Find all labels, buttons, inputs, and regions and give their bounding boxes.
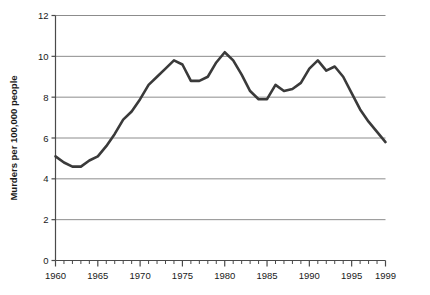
x-axis-tick-label: 1985 [256,270,277,281]
x-axis-tick-label: 1960 [45,270,66,281]
x-axis-tick-label: 1980 [214,270,235,281]
x-axis-tick-label: 1970 [130,270,151,281]
x-axis-tick-label: 1990 [299,270,320,281]
y-axis-tick-label: 10 [38,51,49,62]
y-axis-tick-label: 2 [43,214,48,225]
x-axis-tick-label: 1999 [375,270,396,281]
x-axis-tick-label: 1975 [172,270,193,281]
y-axis-tick-label: 6 [43,133,48,144]
y-axis-title: Murders per 100,000 people [8,75,19,200]
y-axis-tick-label: 12 [38,10,49,21]
x-axis-tick-label: 1965 [87,270,108,281]
y-axis-tick-label: 4 [43,173,48,184]
y-axis-tick-label: 0 [43,255,48,266]
data-series-line [56,52,386,166]
x-axis-tick-label: 1995 [341,270,362,281]
line-chart: 0246810121960196519701975198019851990199… [0,0,430,295]
chart-canvas: 0246810121960196519701975198019851990199… [0,0,430,295]
y-axis-tick-label: 8 [43,92,48,103]
